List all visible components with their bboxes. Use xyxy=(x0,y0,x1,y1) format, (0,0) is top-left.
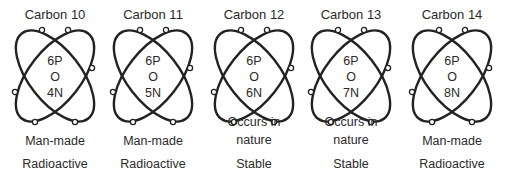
nucleus-symbol: O xyxy=(204,69,304,85)
isotope-title: Carbon 14 xyxy=(402,7,502,22)
nucleus-symbol: O xyxy=(103,69,203,85)
origin-label: Man-made xyxy=(103,132,203,150)
isotope-title: Carbon 11 xyxy=(103,7,203,22)
isotope-title: Carbon 12 xyxy=(204,7,304,22)
protons-label: 6P xyxy=(402,53,502,69)
origin-line-2: nature xyxy=(204,131,304,149)
neutrons-label: 4N xyxy=(5,85,105,101)
protons-label: 6P xyxy=(301,53,401,69)
origin-line-1: Occurs in xyxy=(301,113,401,131)
isotope-title: Carbon 13 xyxy=(301,7,401,22)
neutrons-label: 6N xyxy=(204,85,304,101)
nucleus-symbol: O xyxy=(5,69,105,85)
origin-label: Man-made xyxy=(402,132,502,150)
origin-label: Man-made xyxy=(5,132,105,150)
origin-line-1: Man-made xyxy=(5,132,105,150)
stability-label: Radioactive xyxy=(402,157,502,171)
nucleus-label: 6P O 6N xyxy=(204,53,304,101)
isotope-column-carbon-12: Carbon 12 6P O 6N Occurs in nature S xyxy=(204,0,304,185)
stability-label: Radioactive xyxy=(5,157,105,171)
nucleus-label: 6P O 7N xyxy=(301,53,401,101)
protons-label: 6P xyxy=(5,53,105,69)
origin-line-1: Occurs in xyxy=(204,113,304,131)
nucleus-label: 6P O 4N xyxy=(5,53,105,101)
origin-line-1: Man-made xyxy=(103,132,203,150)
stability-label: Radioactive xyxy=(103,157,203,171)
nucleus-symbol: O xyxy=(301,69,401,85)
origin-label: Occurs in nature xyxy=(204,113,304,149)
neutrons-label: 8N xyxy=(402,85,502,101)
origin-line-1: Man-made xyxy=(402,132,502,150)
neutrons-label: 5N xyxy=(103,85,203,101)
nucleus-symbol: O xyxy=(402,69,502,85)
isotope-title: Carbon 10 xyxy=(5,7,105,22)
stability-label: Stable xyxy=(204,157,304,171)
neutrons-label: 7N xyxy=(301,85,401,101)
isotope-column-carbon-13: Carbon 13 6P O 7N Occurs in nature S xyxy=(301,0,401,185)
nucleus-label: 6P O 5N xyxy=(103,53,203,101)
isotope-column-carbon-14: Carbon 14 6P O 8N Man-made Radioact xyxy=(402,0,502,185)
nucleus-label: 6P O 8N xyxy=(402,53,502,101)
isotope-column-carbon-10: Carbon 10 6P O 4N Man-made Radioact xyxy=(5,0,105,185)
origin-line-2: nature xyxy=(301,131,401,149)
protons-label: 6P xyxy=(103,53,203,69)
stability-label: Stable xyxy=(301,157,401,171)
isotope-column-carbon-11: Carbon 11 6P O 5N Man-made Radioact xyxy=(103,0,203,185)
origin-label: Occurs in nature xyxy=(301,113,401,149)
protons-label: 6P xyxy=(204,53,304,69)
